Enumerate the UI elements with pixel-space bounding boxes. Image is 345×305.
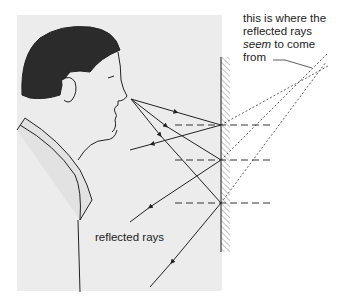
- caption-line-1: this is where the: [243, 12, 345, 25]
- reflected-rays-label: reflected rays: [95, 231, 164, 244]
- caption-line-4: from: [243, 51, 345, 64]
- virtual-image-caption: this is where the reflected rays seem to…: [243, 12, 345, 64]
- caption-line-3: seem to come: [243, 38, 345, 51]
- caption-line-3-rest: to come: [271, 38, 315, 50]
- caption-line-2: reflected rays: [243, 25, 345, 38]
- mirror-hatch: [221, 57, 230, 252]
- caption-emphasis: seem: [243, 38, 271, 50]
- virtual-ray-extensions: [221, 53, 328, 203]
